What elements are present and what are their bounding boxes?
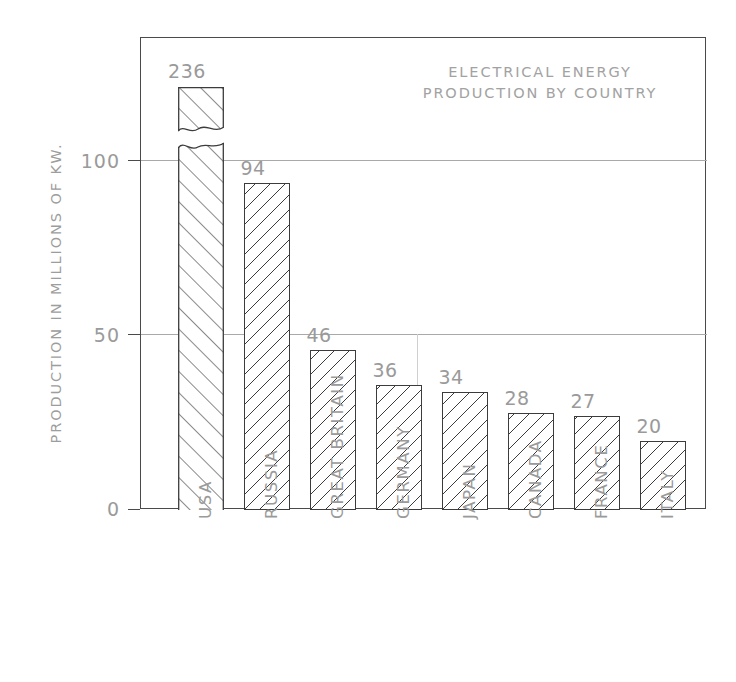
y-tick-label-50: 50 [54, 324, 120, 346]
bar-value-usa: 236 [152, 60, 222, 82]
y-axis-title: PRODUCTION IN MILLIONS OF KW. [48, 83, 64, 503]
chart-title-line-1: ELECTRICAL ENERGY [448, 64, 631, 80]
y-tick-label-0: 0 [54, 498, 120, 520]
y-tick-mark-0 [128, 509, 140, 510]
bar-value-germany: 36 [350, 359, 420, 381]
category-label-usa: USA [196, 480, 215, 519]
gridline-50 [141, 334, 707, 335]
category-label-italy: ITALY [658, 469, 677, 519]
y-tick-mark-100 [128, 160, 140, 161]
bar-usa-lower-segment [178, 138, 224, 510]
category-label-russia: RUSSIA [262, 449, 281, 519]
category-label-great-britain: GREAT BRITAIN [328, 373, 347, 519]
category-label-germany: GERMANY [394, 425, 413, 519]
y-tick-mark-50 [128, 334, 140, 335]
bar-chart: PRODUCTION IN MILLIONS OF KW. 100 50 0 [0, 0, 736, 682]
category-label-france: FRANCE [592, 444, 611, 519]
bar-value-italy: 20 [614, 415, 684, 437]
bar-usa-upper-segment [178, 87, 224, 136]
chart-title-line-2: PRODUCTION BY COUNTRY [395, 83, 685, 104]
bar-value-great-britain: 46 [284, 324, 354, 346]
bar-value-canada: 28 [482, 387, 552, 409]
chart-title: ELECTRICAL ENERGY PRODUCTION BY COUNTRY [395, 62, 685, 104]
bar-value-japan: 34 [416, 366, 486, 388]
y-tick-label-100: 100 [54, 150, 120, 172]
category-label-japan: JAPAN [460, 463, 479, 519]
plot-area [140, 37, 706, 509]
bar-value-france: 27 [548, 390, 618, 412]
category-label-canada: CANADA [526, 439, 545, 519]
bar-value-russia: 94 [218, 157, 288, 179]
